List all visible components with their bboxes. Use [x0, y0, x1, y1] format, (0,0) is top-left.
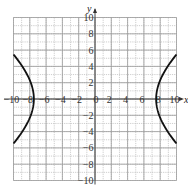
- x-tick-label: 4: [123, 94, 128, 105]
- x-tick-label: −2: [71, 94, 82, 105]
- y-axis-label: y: [86, 3, 92, 14]
- y-tick-label: −10: [78, 175, 94, 186]
- y-tick-label: 8: [89, 28, 94, 39]
- y-tick-label: 6: [89, 45, 94, 56]
- x-tick-label: 10: [170, 94, 180, 105]
- x-tick-label: 6: [139, 94, 144, 105]
- y-tick-label: 4: [89, 61, 94, 72]
- y-tick-label: −6: [83, 142, 94, 153]
- x-tick-label: −4: [55, 94, 66, 105]
- x-tick-label: −8: [22, 94, 33, 105]
- x-axis-label: x: [183, 94, 188, 105]
- x-tick-label: −6: [39, 94, 50, 105]
- y-tick-label: −2: [83, 110, 94, 121]
- x-tick-label: −10: [4, 94, 20, 105]
- y-tick-label: 2: [89, 77, 94, 88]
- x-tick-label: 0: [94, 94, 99, 105]
- y-tick-label: −4: [83, 126, 94, 137]
- hyperbola-graph: −10−8−6−4−20246810108642−2−4−6−8−10 x y: [0, 0, 188, 186]
- y-tick-label: −8: [83, 159, 94, 170]
- x-tick-label: 2: [107, 94, 112, 105]
